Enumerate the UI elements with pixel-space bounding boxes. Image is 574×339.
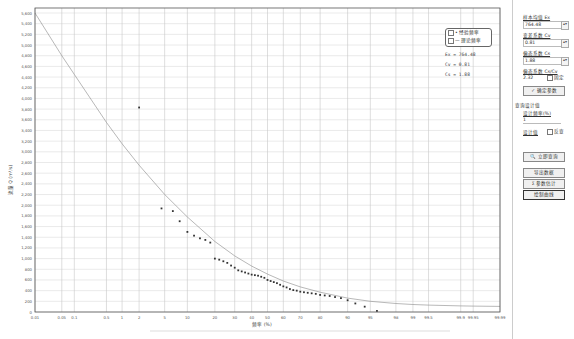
cv-spinner[interactable]: ▴▾ [561, 39, 569, 48]
chart-legend: • 经验频率 — 理论频率 [445, 28, 492, 47]
export-data-button[interactable]: 导出数据 [523, 168, 565, 178]
checkbox-icon[interactable] [547, 129, 553, 135]
svg-text:99.99: 99.99 [495, 315, 506, 320]
query-section-title: 查询设计值 [515, 102, 540, 108]
svg-text:1,000: 1,000 [21, 256, 32, 261]
freq-input[interactable]: 1 [523, 117, 561, 124]
svg-text:80: 80 [318, 315, 323, 320]
svg-text:1,200: 1,200 [21, 245, 32, 250]
svg-text:4,800: 4,800 [21, 53, 32, 58]
svg-text:0.05: 0.05 [58, 315, 67, 320]
svg-text:0.1: 0.1 [71, 315, 78, 320]
svg-text:4,400: 4,400 [21, 75, 32, 80]
svg-text:95: 95 [368, 315, 373, 320]
svg-text:600: 600 [25, 277, 33, 282]
svg-text:98: 98 [393, 315, 398, 320]
svg-text:200: 200 [25, 299, 33, 304]
svg-text:4,200: 4,200 [21, 85, 32, 90]
fix-label: 固定 [554, 75, 564, 80]
frequency-chart: 02004006008001,0001,2001,4001,6001,8002,… [0, 0, 512, 330]
fix-checkbox[interactable]: 固定 [547, 74, 564, 81]
svg-text:400: 400 [25, 288, 33, 293]
ex-spinner[interactable]: ▴▾ [561, 21, 569, 30]
svg-text:3,800: 3,800 [21, 107, 32, 112]
svg-text:2,800: 2,800 [21, 160, 32, 165]
svg-text:30: 30 [232, 315, 237, 320]
svg-text:5,600: 5,600 [21, 11, 32, 16]
svg-text:2,000: 2,000 [21, 203, 32, 208]
y-axis-label: 流量 Q (m³/s) [7, 165, 14, 196]
checkbox-icon[interactable] [448, 38, 454, 44]
svg-text:99.5: 99.5 [424, 315, 433, 320]
legend-label: — 理论频率 [455, 38, 481, 43]
cv-label: 变差系数 Cv [523, 32, 550, 38]
checkbox-icon[interactable] [547, 75, 553, 81]
svg-text:3,600: 3,600 [21, 117, 32, 122]
svg-text:1,600: 1,600 [21, 224, 32, 229]
svg-text:0.01: 0.01 [31, 315, 40, 320]
svg-text:2,400: 2,400 [21, 181, 32, 186]
svg-text:60: 60 [281, 315, 286, 320]
cs-label: 偏态系数 Cs [523, 50, 550, 56]
reverse-checkbox[interactable]: 反查 [547, 128, 564, 135]
draw-curve-button[interactable]: 绘制曲线 [523, 190, 565, 200]
svg-text:2: 2 [138, 315, 141, 320]
svg-text:99.9: 99.9 [456, 315, 465, 320]
svg-text:3,000: 3,000 [21, 149, 32, 154]
ex-input[interactable]: 764.48 [523, 21, 562, 29]
svg-text:2,600: 2,600 [21, 171, 32, 176]
param-cv: Cv = 0.81 [445, 62, 470, 67]
svg-text:1,800: 1,800 [21, 213, 32, 218]
svg-text:70: 70 [298, 315, 303, 320]
svg-text:99: 99 [411, 315, 416, 320]
svg-text:40: 40 [249, 315, 254, 320]
ratio-value: 2.32 [523, 75, 533, 80]
svg-text:10: 10 [185, 315, 190, 320]
caption-strip [150, 330, 450, 332]
param-cs: Cs = 1.88 [445, 72, 470, 77]
svg-text:0: 0 [30, 310, 33, 315]
svg-text:5,400: 5,400 [21, 21, 32, 26]
svg-text:4,600: 4,600 [21, 64, 32, 69]
legend-label: • 经验频率 [455, 30, 479, 35]
ex-label: 样本均值 Ex [523, 14, 550, 20]
cs-spinner[interactable]: ▴▾ [561, 57, 569, 66]
svg-text:1: 1 [121, 315, 124, 320]
confirm-params-button[interactable]: ✓ 确定参数 [523, 86, 565, 96]
empirical-points [138, 107, 378, 312]
svg-text:20: 20 [212, 315, 217, 320]
svg-text:1,400: 1,400 [21, 235, 32, 240]
svg-text:50: 50 [265, 315, 270, 320]
svg-text:800: 800 [25, 267, 33, 272]
svg-text:0.5: 0.5 [103, 315, 110, 320]
parameter-panel: 样本均值 Ex 764.48 ▴▾ 变差系数 Cv 0.81 ▴▾ 偏态系数 C… [512, 0, 574, 339]
cv-input[interactable]: 0.81 [523, 39, 562, 47]
svg-text:4,000: 4,000 [21, 96, 32, 101]
design-value-label: 设计值 [523, 129, 538, 135]
x-axis-label: 频率 (%) [252, 321, 272, 328]
svg-text:99.95: 99.95 [468, 315, 479, 320]
y-axis: 02004006008001,0001,2001,4001,6001,8002,… [21, 11, 32, 315]
checkbox-icon[interactable] [448, 30, 454, 36]
svg-text:3,200: 3,200 [21, 139, 32, 144]
cs-input[interactable]: 1.88 [523, 57, 562, 65]
legend-theoretical[interactable]: — 理论频率 [446, 37, 491, 45]
query-button[interactable]: 🔍 立即查询 [523, 152, 565, 162]
x-axis: 0.010.050.10.512510203040506070809095989… [31, 315, 506, 320]
param-ex: Ex = 764.48 [445, 52, 475, 57]
freq-label: 设计频率(%) [523, 110, 551, 116]
svg-text:5: 5 [163, 315, 166, 320]
svg-text:5,000: 5,000 [21, 43, 32, 48]
reverse-label: 反查 [554, 129, 564, 134]
svg-text:3,400: 3,400 [21, 128, 32, 133]
chart-grid [35, 8, 500, 312]
legend-empirical[interactable]: • 经验频率 [446, 29, 491, 37]
estimate-params-button[interactable]: Σ 参数估计 [523, 179, 565, 189]
svg-text:90: 90 [345, 315, 350, 320]
svg-text:2,200: 2,200 [21, 192, 32, 197]
svg-text:5,200: 5,200 [21, 32, 32, 37]
